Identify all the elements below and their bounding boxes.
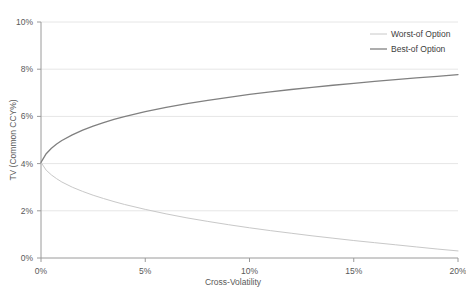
y-tick-label: 10% [16, 17, 33, 27]
x-axis [41, 258, 458, 262]
series-line-best-of-option [41, 75, 458, 163]
x-axis-title: Cross-Volatility [205, 277, 262, 287]
y-axis [37, 22, 41, 258]
x-tick-label: 0% [35, 266, 48, 276]
chart-container: 0%2%4%6%8%10% 0%5%10%15%20% Cross-Volati… [0, 0, 466, 297]
legend-label: Worst-of Option [391, 29, 451, 39]
y-tick-labels: 0%2%4%6%8%10% [16, 17, 33, 263]
y-axis-title: TV (Common CCY%) [8, 99, 18, 180]
series-line-worst-of-option [41, 162, 458, 251]
x-tick-label: 10% [241, 266, 258, 276]
y-tick-label: 8% [21, 64, 34, 74]
y-tick-label: 6% [21, 111, 34, 121]
x-tick-label: 20% [449, 266, 466, 276]
line-chart: 0%2%4%6%8%10% 0%5%10%15%20% Cross-Volati… [0, 0, 466, 297]
y-tick-label: 2% [21, 206, 34, 216]
legend-label: Best-of Option [391, 44, 446, 54]
x-tick-label: 15% [345, 266, 362, 276]
y-tick-label: 0% [21, 253, 34, 263]
data-series [41, 75, 458, 251]
x-tick-labels: 0%5%10%15%20% [35, 266, 466, 276]
legend: Worst-of OptionBest-of Option [370, 29, 451, 54]
y-tick-label: 4% [21, 159, 34, 169]
x-tick-label: 5% [139, 266, 152, 276]
